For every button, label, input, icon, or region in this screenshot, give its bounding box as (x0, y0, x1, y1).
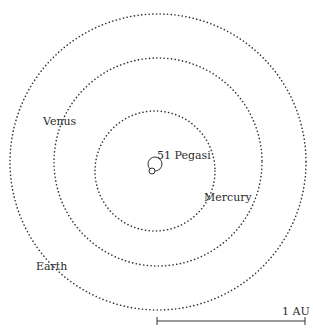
scale-label: 1 AU (282, 305, 310, 318)
venus-label: Venus (42, 115, 77, 128)
mercury-label: Mercury (204, 191, 253, 204)
planet-marker (149, 168, 155, 174)
solar-system-comparison-diagram: 51 Pegasi Venus Mercury Earth 1 AU (0, 0, 313, 330)
venus-orbit (54, 58, 262, 266)
earth-label: Earth (36, 260, 67, 273)
star-label: 51 Pegasi (157, 149, 211, 162)
